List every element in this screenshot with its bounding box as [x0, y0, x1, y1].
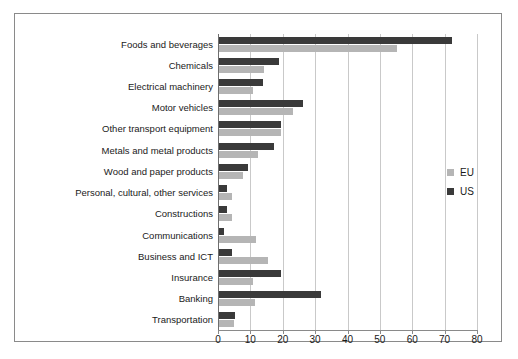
x-tick-label: 70 — [430, 334, 460, 345]
bar-group — [218, 37, 477, 53]
bar-group — [218, 185, 477, 201]
bar-group — [218, 291, 477, 307]
bar-us — [219, 121, 281, 128]
x-tick-mark — [445, 330, 446, 334]
category-label: Chemicals — [169, 60, 213, 71]
x-tick-label: 10 — [235, 334, 265, 345]
category-label: Constructions — [155, 208, 213, 219]
x-tick-label: 60 — [397, 334, 427, 345]
bar-group — [218, 100, 477, 116]
bar-eu — [219, 172, 243, 179]
bar-group — [218, 228, 477, 244]
bar-eu — [219, 278, 253, 285]
legend-swatch-us — [447, 188, 454, 195]
bar-group — [218, 164, 477, 180]
legend-item: EU — [447, 167, 507, 178]
category-label: Business and ICT — [138, 251, 213, 262]
x-tick-label: 20 — [268, 334, 298, 345]
category-label: Banking — [179, 293, 213, 304]
bar-rows — [218, 34, 477, 331]
category-label: Motor vehicles — [152, 102, 213, 113]
bar-us — [219, 143, 274, 150]
bar-us — [219, 270, 281, 277]
bar-us — [219, 291, 321, 298]
bar-us — [219, 37, 452, 44]
x-tick-mark — [315, 330, 316, 334]
bar-group — [218, 58, 477, 74]
bar-us — [219, 228, 224, 235]
legend-label-eu: EU — [460, 167, 474, 178]
x-tick-label: 80 — [462, 334, 492, 345]
bar-us — [219, 206, 227, 213]
chart-frame: Foods and beveragesChemicalsElectrical m… — [14, 13, 502, 342]
bar-eu — [219, 257, 268, 264]
bar-eu — [219, 45, 397, 52]
bar-group — [218, 143, 477, 159]
category-label: Transportation — [152, 314, 213, 325]
bar-eu — [219, 66, 264, 73]
category-label: Wood and paper products — [104, 166, 213, 177]
bar-group — [218, 312, 477, 328]
x-tick-mark — [412, 330, 413, 334]
category-label: Foods and beverages — [121, 39, 213, 50]
bar-us — [219, 185, 227, 192]
bar-group — [218, 206, 477, 222]
bar-eu — [219, 129, 281, 136]
bar-group — [218, 270, 477, 286]
bar-eu — [219, 214, 232, 221]
bar-us — [219, 249, 232, 256]
x-tick-mark — [218, 330, 219, 334]
x-tick-label: 0 — [203, 334, 233, 345]
bar-eu — [219, 299, 255, 306]
category-label: Electrical machinery — [128, 81, 213, 92]
x-tick-mark — [477, 330, 478, 334]
category-label: Other transport equipment — [102, 123, 213, 134]
bar-us — [219, 312, 235, 319]
category-axis-labels: Foods and beveragesChemicalsElectrical m… — [15, 34, 213, 331]
category-label: Personal, cultural, other services — [75, 187, 213, 198]
x-tick-label: 40 — [333, 334, 363, 345]
category-label: Communications — [142, 230, 213, 241]
bar-us — [219, 58, 279, 65]
x-tick-label: 30 — [300, 334, 330, 345]
legend-item: US — [447, 186, 507, 197]
bar-eu — [219, 236, 256, 243]
category-label: Insurance — [171, 272, 213, 283]
legend: EU US — [447, 167, 507, 205]
bar-eu — [219, 108, 293, 115]
bar-group — [218, 79, 477, 95]
bar-us — [219, 164, 248, 171]
category-label: Metals and metal products — [102, 145, 213, 156]
bar-eu — [219, 320, 234, 327]
bar-group — [218, 249, 477, 265]
x-tick-mark — [283, 330, 284, 334]
bar-group — [218, 121, 477, 137]
x-axis-tick-labels: 01020304050607080 — [218, 334, 490, 350]
bar-us — [219, 100, 303, 107]
bar-eu — [219, 87, 253, 94]
x-tick-mark — [380, 330, 381, 334]
bar-eu — [219, 193, 232, 200]
plot-area — [218, 34, 477, 331]
bar-us — [219, 79, 263, 86]
bar-eu — [219, 151, 258, 158]
legend-label-us: US — [460, 186, 474, 197]
x-tick-label: 50 — [365, 334, 395, 345]
x-tick-mark — [348, 330, 349, 334]
legend-swatch-eu — [447, 169, 454, 176]
x-tick-mark — [250, 330, 251, 334]
